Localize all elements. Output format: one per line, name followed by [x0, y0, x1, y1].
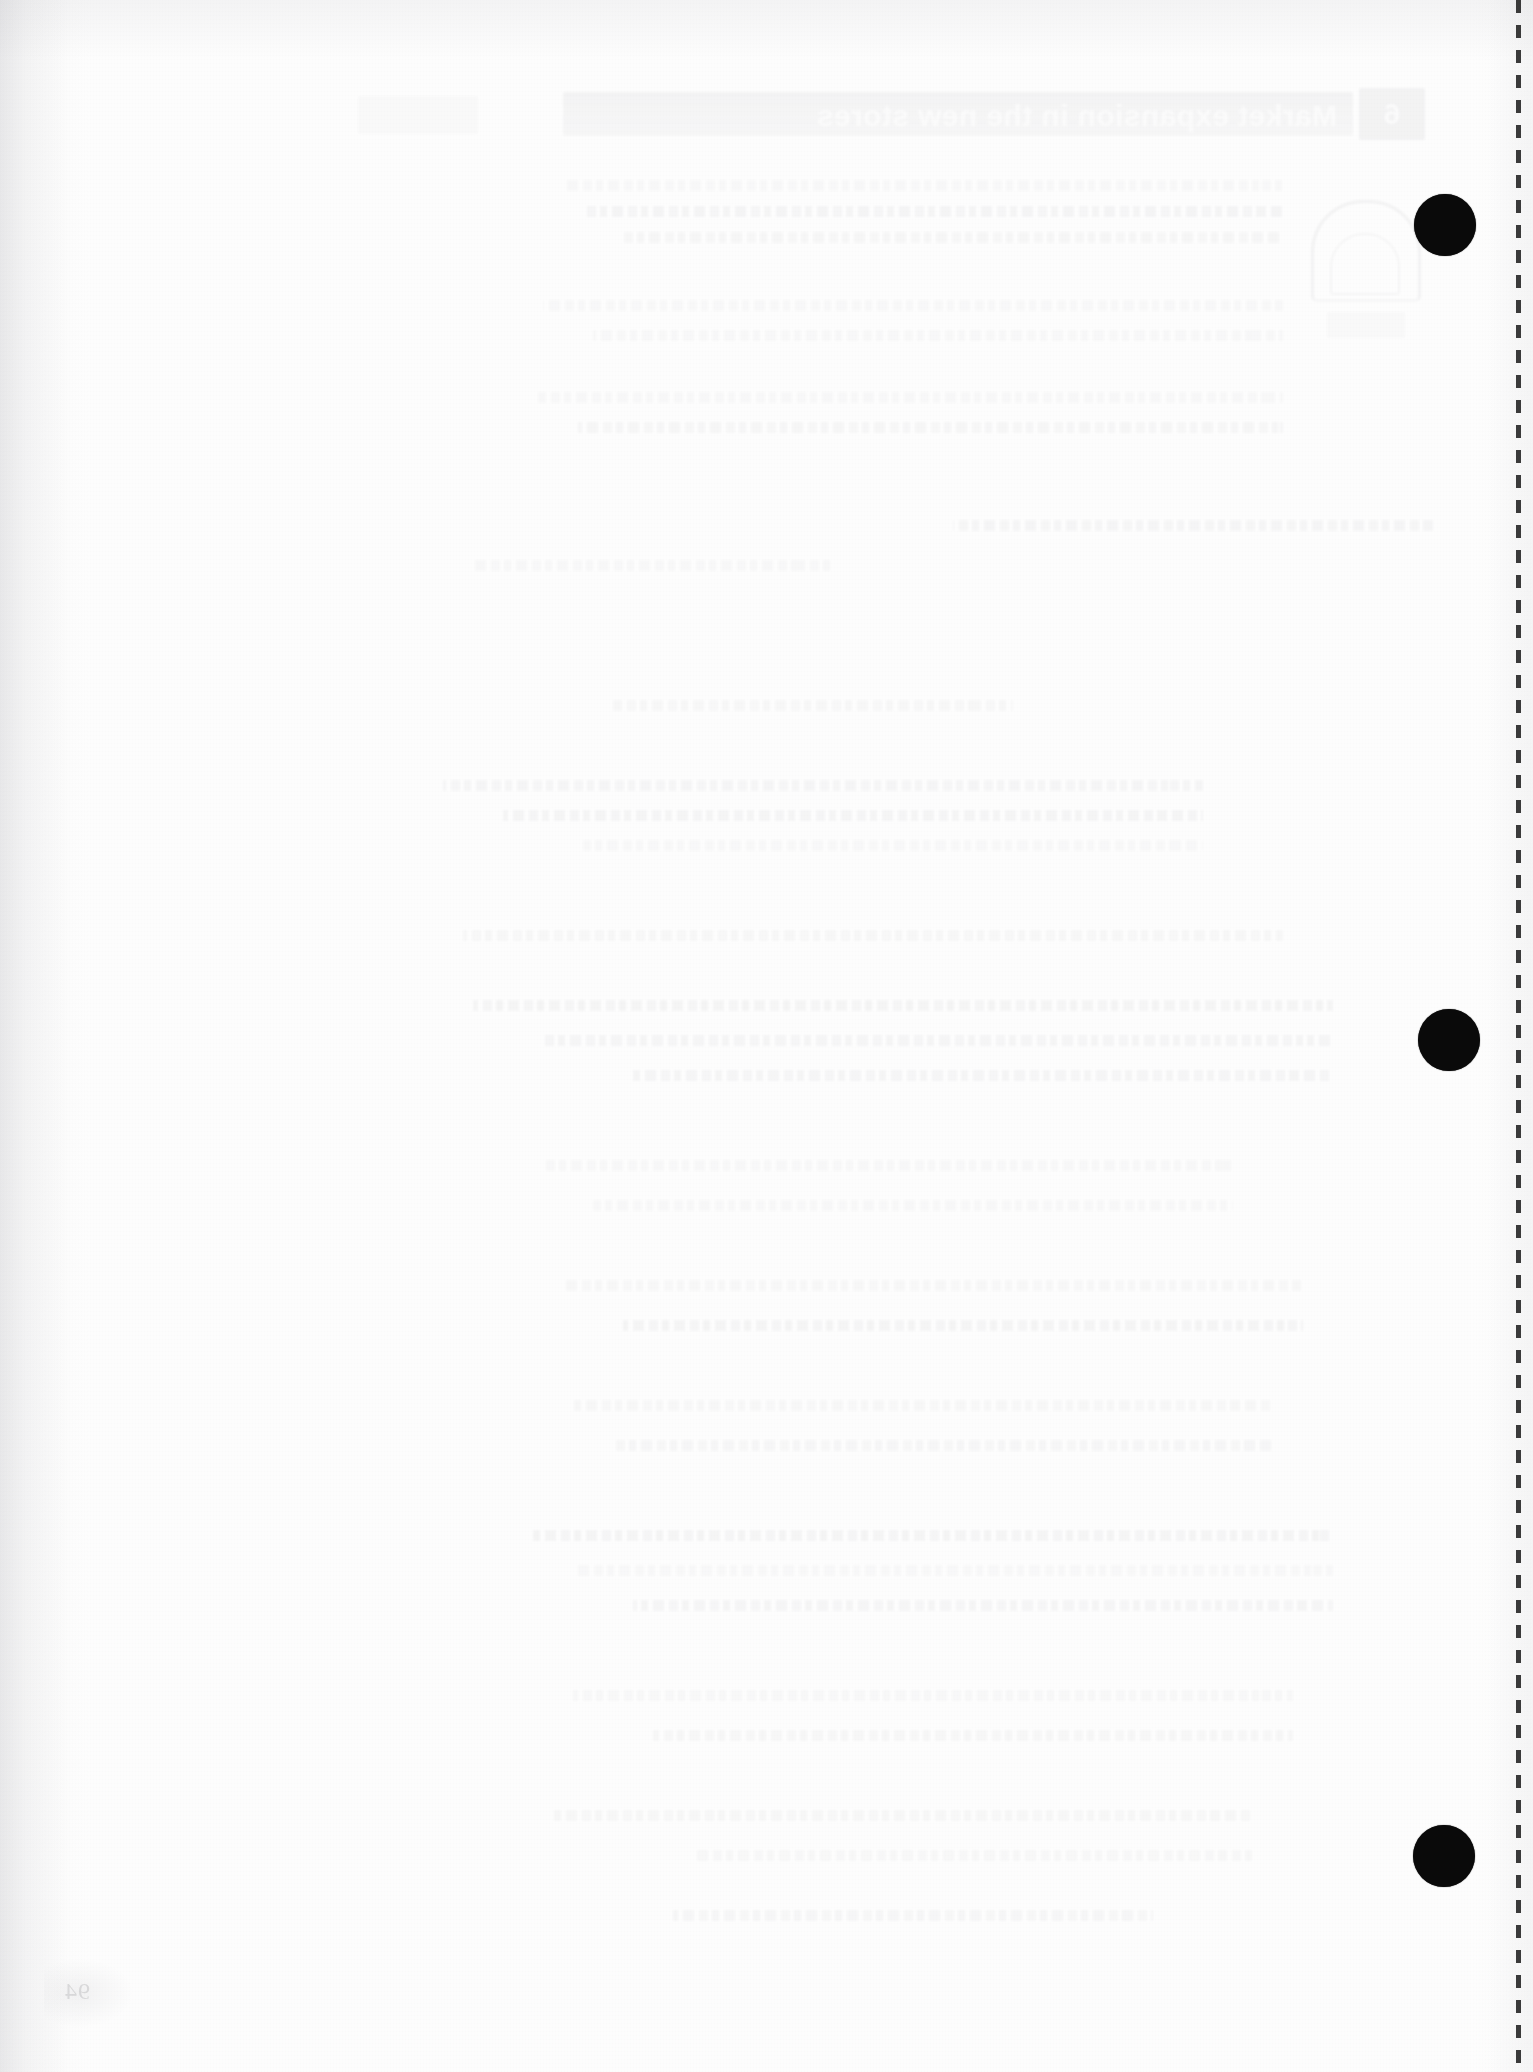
binder-punch-hole — [1414, 194, 1476, 256]
perforation-line — [1516, 0, 1521, 2072]
binder-punch-hole — [1418, 1009, 1480, 1071]
scanned-page: 6 Market expansion in the new stores 94 — [0, 0, 1533, 2072]
page-number: 94 — [64, 1978, 90, 2005]
binder-punch-hole — [1413, 1825, 1475, 1887]
paper-surface — [0, 0, 1533, 2072]
